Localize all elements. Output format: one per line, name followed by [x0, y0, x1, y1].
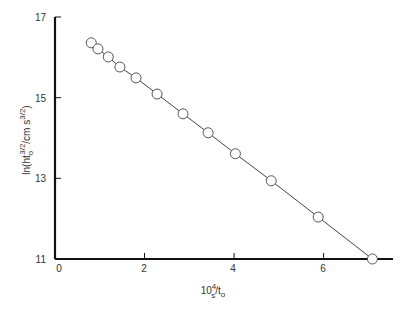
y-tick-label-11: 11	[36, 254, 47, 265]
data-point	[131, 73, 141, 83]
y-tick-label-17: 17	[35, 12, 47, 23]
x-tick-label-0: 0	[56, 263, 62, 274]
data-point	[93, 44, 103, 54]
data-point	[115, 62, 125, 72]
data-point	[266, 176, 276, 186]
x-tick-label-2: 2	[141, 263, 147, 274]
x-axis-label: 104s/to	[201, 282, 226, 300]
data-point	[152, 89, 162, 99]
data-point	[367, 254, 377, 264]
x-tick-label-6: 6	[320, 263, 326, 274]
data-point	[203, 128, 213, 138]
data-point	[178, 109, 188, 119]
chart: 17 15 13 11 0 2 4 6 104s/to ln(hto3/2/cm…	[0, 0, 406, 311]
y-axis-label: ln(hto3/2/cm s3/2)	[18, 105, 35, 174]
data-point	[103, 52, 113, 62]
data-point	[313, 212, 323, 222]
data-point	[230, 149, 240, 159]
data-markers	[86, 38, 377, 264]
y-tick-label-15: 15	[35, 93, 47, 104]
y-tick-label-13: 13	[35, 173, 47, 184]
x-tick-label-4: 4	[230, 263, 236, 274]
